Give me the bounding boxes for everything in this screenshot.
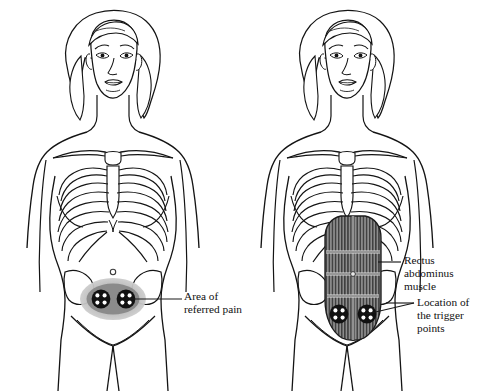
trigger-point-icon (330, 305, 349, 324)
label-area-of-referred-pain: Area of referred pain (184, 290, 242, 316)
referred-pain-figure (27, 10, 199, 391)
trigger-point-icon (92, 290, 111, 309)
navel-icon (110, 269, 115, 274)
label-rectus-abdominus-muscle: Rectus abdominus muscle (404, 254, 454, 294)
anatomy-illustration (0, 0, 487, 391)
rectus-abdominus-muscle (325, 216, 381, 340)
illustration-canvas: Area of referred pain Rectus abdominus m… (0, 0, 487, 391)
label-location-of-trigger-points: Location of the trigger points (417, 296, 469, 336)
rectus-abdominus-figure (261, 10, 433, 391)
